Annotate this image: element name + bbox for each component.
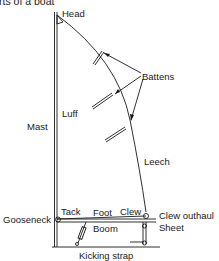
label-leech: Leech xyxy=(144,156,170,167)
label-mast: Mast xyxy=(27,121,48,132)
batten-3 xyxy=(105,127,126,142)
label-luff: Luff xyxy=(62,108,78,119)
label-clew-outhaul: Clew outhaul xyxy=(159,210,214,221)
batten-2 xyxy=(92,93,113,109)
label-clew: Clew xyxy=(120,206,141,217)
label-tack: Tack xyxy=(61,206,81,217)
label-head: Head xyxy=(62,8,85,19)
batten-arrow-3 xyxy=(131,79,143,120)
label-kicking-strap: Kicking strap xyxy=(79,250,133,261)
label-sheet: Sheet xyxy=(159,222,184,233)
label-battens: Battens xyxy=(142,71,174,82)
label-foot: Foot xyxy=(93,207,112,218)
gooseneck-fitting xyxy=(56,217,61,222)
label-boom: Boom xyxy=(93,223,118,234)
label-gooseneck: Gooseneck xyxy=(3,214,51,225)
batten-1 xyxy=(93,51,104,65)
